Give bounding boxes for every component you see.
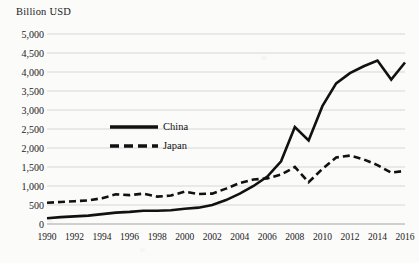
x-axis-tick-label: 2010 — [313, 232, 332, 242]
x-axis-tick-label: 1994 — [93, 232, 112, 242]
legend-label-china: China — [163, 121, 188, 132]
x-axis-tick-label: 2008 — [285, 232, 304, 242]
x-axis-tick-labels: 1990199219941996199820002002200420062008… — [0, 232, 419, 254]
series-line-japan — [47, 156, 405, 203]
legend-label-japan: Japan — [163, 140, 187, 151]
legend-swatches — [110, 127, 158, 146]
chart-figure: Billion USD 05001,0001,5002,0002,5003,00… — [0, 0, 419, 263]
x-axis-tick-label: 2000 — [175, 232, 194, 242]
x-axis-tick-label: 2006 — [258, 232, 277, 242]
x-axis-tick-label: 1998 — [148, 232, 167, 242]
plot-area — [0, 0, 419, 263]
x-axis-tick-label: 2004 — [230, 232, 249, 242]
x-axis-tick-label: 2012 — [340, 232, 359, 242]
x-axis-tick-label: 2002 — [203, 232, 222, 242]
gridlines — [47, 34, 405, 224]
x-axis-tick-label: 1990 — [38, 232, 57, 242]
data-series-layer — [47, 61, 405, 219]
x-axis-tick-label: 2016 — [396, 232, 415, 242]
x-axis-tick-label: 2014 — [368, 232, 387, 242]
x-axis-tick-label: 1996 — [120, 232, 139, 242]
series-line-china — [47, 61, 405, 219]
x-axis-tick-label: 1992 — [65, 232, 84, 242]
